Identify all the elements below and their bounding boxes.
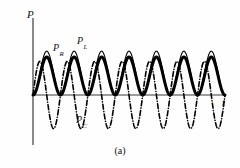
x-axis-label: t [222, 97, 225, 108]
figure-caption: (a) [0, 145, 240, 156]
curve-label-pr-subscript: R [59, 50, 63, 57]
curve-label-pr: PR [53, 43, 63, 56]
curve-label-pl-subscript: L [83, 43, 87, 50]
figure-panel: P t PR PL PC (a) [0, 0, 240, 168]
curve-label-pc: PC [76, 115, 87, 128]
y-axis-label: P [27, 9, 34, 20]
plot-canvas [0, 0, 240, 168]
curve-label-pc-subscript: C [82, 122, 87, 129]
curves-group [33, 51, 225, 128]
curve-label-pl: PL [77, 36, 87, 49]
